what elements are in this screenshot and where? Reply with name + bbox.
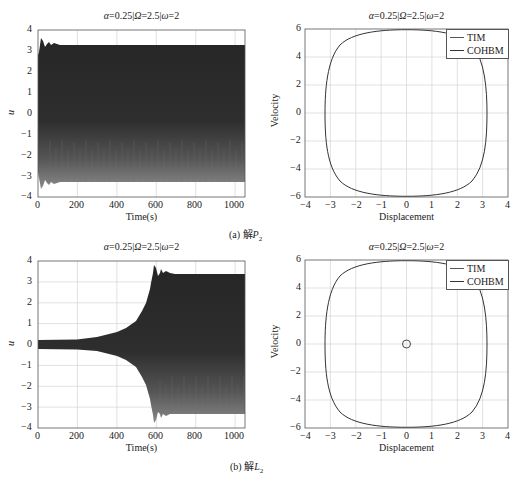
x-tick: 400 — [109, 430, 124, 441]
y-tick: 0 — [27, 338, 32, 349]
y-tick: 1 — [27, 317, 32, 328]
x-tick: 600 — [148, 430, 163, 441]
x-tick: 2 — [455, 199, 460, 210]
plot-area — [0, 231, 260, 456]
x-tick: 1000 — [224, 430, 244, 441]
y-axis-label: Velocity — [269, 94, 280, 127]
y-tick: 0 — [296, 337, 301, 348]
x-tick: 4 — [505, 430, 510, 441]
y-tick: 2 — [296, 309, 301, 320]
x-axis-label: Time(s) — [38, 442, 245, 453]
y-tick: 0 — [296, 106, 301, 117]
y-tick: 4 — [296, 50, 301, 61]
x-tick: −3 — [325, 430, 336, 441]
y-axis-label: u — [5, 341, 16, 346]
y-tick: 2 — [27, 296, 32, 307]
x-tick: 0 — [35, 199, 40, 210]
y-tick: 0 — [27, 107, 32, 118]
y-tick: −3 — [21, 401, 32, 412]
x-tick: 0 — [404, 199, 409, 210]
x-tick: 3 — [480, 199, 485, 210]
x-tick: −1 — [376, 430, 387, 441]
legend-item-cohbm: COHBM — [450, 275, 504, 288]
line-swatch-icon — [450, 268, 464, 269]
legend: TIM COHBM — [446, 260, 509, 290]
x-tick: −3 — [325, 199, 336, 210]
x-tick: −2 — [351, 430, 362, 441]
panel-b-phase-portrait: α=0.25|Ω=2.5|ω=2 TIM COHBM 6 4 2 0 −2 −4… — [260, 231, 521, 456]
plot-area — [0, 0, 260, 225]
y-tick: 4 — [27, 23, 32, 34]
y-tick: −1 — [21, 359, 32, 370]
x-tick: −2 — [351, 199, 362, 210]
line-swatch-icon — [450, 281, 464, 282]
panel-b-time-series: α=0.25|Ω=2.5|ω=2 4 3 2 1 0 −1 −2 −3 −4 — [0, 231, 260, 456]
y-tick: 6 — [296, 253, 301, 264]
legend-item-cohbm: COHBM — [450, 44, 504, 57]
y-tick: −2 — [21, 380, 32, 391]
signal-fill — [38, 38, 245, 189]
x-tick: 1 — [429, 430, 434, 441]
y-tick: 2 — [296, 78, 301, 89]
x-tick: 1000 — [224, 199, 244, 210]
x-tick: 800 — [187, 430, 202, 441]
x-tick: 0 — [404, 430, 409, 441]
caption-b: (b) 解L2 — [230, 458, 263, 475]
x-tick: 800 — [187, 199, 202, 210]
legend-item-tim: TIM — [450, 31, 504, 44]
panel-a-time-series: α=0.25|Ω=2.5|ω=2 4 3 2 1 0 −1 −2 −3 −4 — [0, 0, 260, 225]
x-tick: 600 — [148, 199, 163, 210]
y-tick: 2 — [27, 65, 32, 76]
x-tick: 200 — [69, 199, 84, 210]
y-tick: −2 — [290, 134, 301, 145]
line-swatch-icon — [450, 37, 464, 38]
y-tick: 6 — [296, 22, 301, 33]
x-tick: 0 — [35, 430, 40, 441]
x-axis-label: Displacement — [305, 211, 508, 222]
y-tick: 4 — [27, 254, 32, 265]
y-tick: −2 — [290, 365, 301, 376]
legend: TIM COHBM — [446, 29, 509, 59]
y-tick: 3 — [27, 275, 32, 286]
y-tick: 1 — [27, 86, 32, 97]
legend-item-tim: TIM — [450, 262, 504, 275]
y-tick: −4 — [290, 393, 301, 404]
y-tick: −1 — [21, 128, 32, 139]
x-tick: −4 — [300, 430, 311, 441]
x-axis-label: Displacement — [305, 442, 508, 453]
y-tick: −2 — [21, 149, 32, 160]
y-tick: −3 — [21, 170, 32, 181]
x-tick: 4 — [505, 199, 510, 210]
x-tick: 1 — [429, 199, 434, 210]
x-tick: −4 — [300, 199, 311, 210]
x-tick: 2 — [455, 430, 460, 441]
y-tick: −4 — [21, 190, 32, 201]
x-axis-label: Time(s) — [38, 211, 245, 222]
y-tick: 4 — [296, 281, 301, 292]
x-tick: 400 — [109, 199, 124, 210]
y-axis-label: Velocity — [269, 325, 280, 358]
x-tick: −1 — [376, 199, 387, 210]
x-tick: 200 — [69, 430, 84, 441]
x-tick: 3 — [480, 430, 485, 441]
y-axis-label: u — [5, 110, 16, 115]
y-tick: −4 — [290, 162, 301, 173]
y-tick: −4 — [21, 421, 32, 432]
panel-a-phase-portrait: α=0.25|Ω=2.5|ω=2 TIM COHBM 6 4 2 0 −2 −4… — [260, 0, 521, 225]
y-tick: 3 — [27, 44, 32, 55]
line-swatch-icon — [450, 50, 464, 51]
